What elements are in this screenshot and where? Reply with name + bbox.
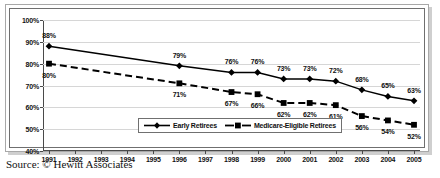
data-label: 66% [251, 102, 264, 109]
x-tick-mark [310, 151, 311, 154]
x-tick-mark [336, 151, 337, 154]
chart-screenshot: 100%90%80%70%60%50%40% 19911992199319941… [0, 0, 440, 178]
data-point-square-marker [359, 113, 365, 119]
legend-marker-diamond-icon [144, 121, 170, 130]
data-label: 73% [303, 64, 316, 71]
x-tick-label: 1999 [250, 156, 265, 163]
x-tick-label: 2003 [354, 156, 369, 163]
data-point-square-marker [229, 89, 235, 95]
y-tick-label: 40% [26, 148, 39, 155]
x-tick-mark [258, 151, 259, 154]
legend-marker-square-icon [225, 121, 251, 130]
legend-entry-medicare-eligible-retirees: Medicare-Eligible Retirees [225, 121, 336, 130]
legend-label-medicare-eligible-retirees: Medicare-Eligible Retirees [254, 122, 336, 129]
data-label: 80% [42, 71, 55, 78]
data-point-diamond-marker [280, 76, 287, 83]
y-tick-mark [40, 151, 43, 152]
y-tick-label: 50% [26, 126, 39, 133]
data-point-square-marker [411, 122, 417, 128]
x-tick-label: 1997 [198, 156, 213, 163]
data-point-square-marker [333, 102, 339, 108]
x-tick-mark [232, 151, 233, 154]
data-label: 52% [407, 132, 420, 139]
data-point-diamond-marker [385, 93, 392, 100]
x-tick-mark [127, 151, 128, 154]
x-tick-mark [414, 151, 415, 154]
data-label: 62% [303, 110, 316, 117]
data-point-diamond-marker [411, 97, 418, 104]
chart-legend: Early Retirees Medicare-Eligible Retiree… [138, 118, 342, 133]
data-label: 68% [355, 75, 368, 82]
x-tick-mark [101, 151, 102, 154]
data-point-square-marker [176, 80, 182, 86]
x-tick-label: 2005 [407, 156, 422, 163]
data-label: 65% [381, 82, 394, 89]
x-tick-label: 1996 [172, 156, 187, 163]
source-caption: Source: © Hewitt Associates [6, 158, 133, 170]
legend-entry-early-retirees: Early Retirees [144, 121, 217, 130]
data-label: 63% [407, 86, 420, 93]
data-point-diamond-marker [306, 76, 313, 83]
x-tick-mark [153, 151, 154, 154]
data-label: 76% [251, 58, 264, 65]
data-label: 56% [355, 124, 368, 131]
x-tick-mark [49, 151, 50, 154]
data-label: 73% [277, 64, 290, 71]
data-point-square-marker [255, 91, 261, 97]
x-tick-label: 2002 [328, 156, 343, 163]
x-tick-label: 1998 [224, 156, 239, 163]
x-tick-mark [205, 151, 206, 154]
data-point-diamond-marker [358, 86, 365, 93]
data-point-square-marker [385, 118, 391, 124]
data-point-square-marker [46, 61, 52, 67]
data-label: 76% [225, 58, 238, 65]
chart-inner-frame: 100%90%80%70%60%50%40% 19911992199319941… [9, 8, 425, 148]
x-tick-label: 2000 [276, 156, 291, 163]
data-label: 72% [329, 67, 342, 74]
x-tick-label: 1995 [146, 156, 161, 163]
data-point-diamond-marker [332, 78, 339, 85]
x-tick-label: 2001 [302, 156, 317, 163]
y-tick-label: 80% [26, 60, 39, 67]
data-point-diamond-marker [46, 43, 53, 50]
data-point-square-marker [307, 100, 313, 106]
data-point-diamond-marker [254, 69, 261, 76]
data-label: 71% [173, 91, 186, 98]
data-label: 62% [277, 110, 290, 117]
x-tick-label: 2004 [381, 156, 396, 163]
x-tick-mark [179, 151, 180, 154]
x-tick-mark [75, 151, 76, 154]
y-tick-label: 60% [26, 104, 39, 111]
data-label: 88% [42, 32, 55, 39]
chart-outer-frame: 100%90%80%70%60%50%40% 19911992199319941… [5, 4, 429, 152]
legend-label-early-retirees: Early Retirees [173, 122, 217, 129]
data-point-diamond-marker [228, 69, 235, 76]
data-label: 54% [381, 128, 394, 135]
x-tick-mark [388, 151, 389, 154]
y-tick-label: 90% [26, 38, 39, 45]
y-tick-label: 70% [26, 82, 39, 89]
x-tick-mark [284, 151, 285, 154]
x-tick-mark [362, 151, 363, 154]
data-label: 79% [173, 51, 186, 58]
y-tick-label: 100% [22, 17, 39, 24]
data-label: 67% [225, 100, 238, 107]
data-point-diamond-marker [176, 62, 183, 69]
data-point-square-marker [281, 100, 287, 106]
